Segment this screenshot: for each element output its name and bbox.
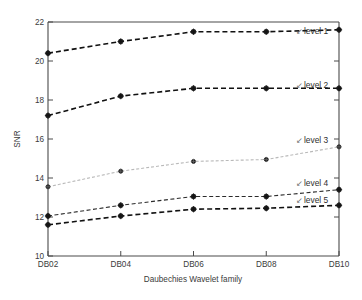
x-axis-title: Daubechies Wavelet family <box>144 275 243 284</box>
y-ticklabel-16: 16 <box>35 135 45 144</box>
marker-cross <box>45 50 51 56</box>
y-ticklabel-14: 14 <box>35 174 45 183</box>
x-ticklabel-db04: DB04 <box>111 260 132 269</box>
x-ticklabel-db10: DB10 <box>329 260 350 269</box>
snr-line-chart: 10 12 14 16 18 20 22 DB02 DB04 DB06 DB08… <box>0 0 362 300</box>
x-ticklabel-db08: DB08 <box>256 260 277 269</box>
series-level-5 <box>45 202 342 228</box>
y-ticklabel-20: 20 <box>35 57 45 66</box>
annotation-label: level 2 <box>304 80 329 90</box>
marker-cross <box>45 222 51 228</box>
series-annotations: ↙level 1↙level 2↙level 3↙level 4↙level 5 <box>296 26 329 206</box>
marker-cross <box>263 85 269 91</box>
marker-cross <box>118 213 124 219</box>
marker-cross <box>45 112 51 118</box>
marker-cross <box>118 93 124 99</box>
marker-cross <box>45 184 50 189</box>
marker-cross <box>190 206 196 212</box>
annotation-arrow-icon: ↙ <box>296 179 303 188</box>
marker-cross <box>263 29 269 35</box>
annotation-label: level 1 <box>304 26 329 36</box>
annotation-label: level 5 <box>304 195 329 205</box>
marker-cross <box>263 205 269 211</box>
annotation-arrow-icon: ↙ <box>296 196 303 205</box>
annotation-arrow-icon: ↙ <box>296 136 303 145</box>
annotation-level-4: ↙level 4 <box>296 178 329 188</box>
marker-cross <box>336 144 341 149</box>
annotation-arrow-icon: ↙ <box>296 27 303 36</box>
annotation-level-3: ↙level 3 <box>296 135 329 145</box>
marker-cross <box>336 187 342 193</box>
marker-cross <box>336 85 342 91</box>
y-ticklabel-22: 22 <box>35 18 45 27</box>
series-line-2 <box>48 88 339 115</box>
marker-cross <box>336 202 342 208</box>
marker-cross <box>190 193 196 199</box>
marker-cross <box>263 193 269 199</box>
y-ticklabel-18: 18 <box>35 96 45 105</box>
y-axis-title: SNR <box>13 130 22 147</box>
y-ticklabel-12: 12 <box>35 213 45 222</box>
marker-cross <box>118 202 124 208</box>
annotation-label: level 3 <box>304 135 329 145</box>
marker-cross <box>191 159 196 164</box>
x-ticklabel-db02: DB02 <box>38 260 59 269</box>
chart-figure: 10 12 14 16 18 20 22 DB02 DB04 DB06 DB08… <box>0 0 362 300</box>
marker-cross <box>45 213 51 219</box>
annotation-level-5: ↙level 5 <box>296 195 329 205</box>
marker-cross <box>336 27 342 33</box>
annotation-arrow-icon: ↙ <box>296 81 303 90</box>
annotation-label: level 4 <box>304 178 329 188</box>
x-ticklabel-db06: DB06 <box>183 260 204 269</box>
marker-cross <box>118 169 123 174</box>
annotation-level-2: ↙level 2 <box>296 80 329 90</box>
marker-cross <box>190 85 196 91</box>
marker-cross <box>190 29 196 35</box>
marker-cross <box>264 157 269 162</box>
annotation-level-1: ↙level 1 <box>296 26 329 36</box>
marker-cross <box>118 38 124 44</box>
x-tick-marks <box>48 251 339 256</box>
